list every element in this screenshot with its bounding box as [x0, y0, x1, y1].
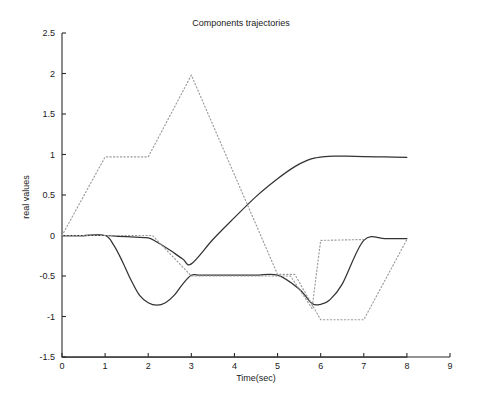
- series-group: [62, 75, 407, 357]
- y-tick-label: -1.5: [39, 352, 55, 362]
- y-tick-label: -0.5: [39, 271, 55, 281]
- y-tick-label: 2.5: [42, 28, 55, 38]
- x-tick-label: 9: [447, 361, 452, 371]
- y-axis-label: real values: [21, 175, 31, 219]
- x-axis-ticks: 0123456789: [59, 353, 452, 371]
- chart-title-group: Components trajectories: [192, 18, 290, 28]
- chart-canvas: Components trajectories 0123456789 2.521…: [0, 0, 482, 404]
- chart-title: Components trajectories: [192, 18, 290, 28]
- series-line-component-1-solid: [62, 235, 407, 305]
- series-line-component-1-dotted: [62, 75, 407, 320]
- y-tick-label: 1: [50, 150, 55, 160]
- y-tick-label: 0: [50, 231, 55, 241]
- x-tick-label: 3: [189, 361, 194, 371]
- y-tick-label: 0.5: [42, 190, 55, 200]
- x-tick-label: 7: [361, 361, 366, 371]
- y-tick-label: 1.5: [42, 109, 55, 119]
- x-tick-label: 0: [59, 361, 64, 371]
- series-line-component-2-solid: [62, 156, 407, 265]
- x-tick-label: 5: [275, 361, 280, 371]
- x-tick-label: 1: [103, 361, 108, 371]
- axes-group: [62, 33, 450, 357]
- x-tick-label: 4: [232, 361, 237, 371]
- series-line-component-2-dotted: [62, 236, 364, 309]
- x-tick-label: 8: [404, 361, 409, 371]
- x-tick-label: 6: [318, 361, 323, 371]
- x-axis-label: Time(sec): [236, 373, 276, 383]
- y-tick-label: 2: [50, 69, 55, 79]
- axis-labels-group: Time(sec) real values: [21, 175, 276, 383]
- y-tick-label: -1: [47, 312, 55, 322]
- chart-figure: Components trajectories 0123456789 2.521…: [0, 0, 482, 404]
- x-tick-label: 2: [146, 361, 151, 371]
